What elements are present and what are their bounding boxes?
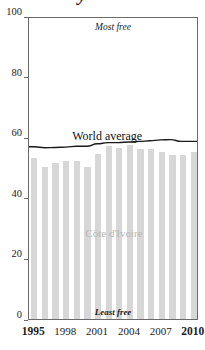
x-axis-tick-label: 2001 [86,325,108,337]
annotation-least-free: Least free [95,307,132,317]
y-axis-tick-label: 40 [12,188,29,199]
freedom-index-chart: y 020406080100 Most free Least free Worl… [0,0,205,350]
cropped-title: y [0,0,205,8]
y-axis-tick-label: 100 [6,6,28,17]
x-axis-tick-label: 2007 [150,325,172,337]
y-axis-tick: 40 [0,193,28,205]
cropped-title-text: y [78,0,86,6]
x-axis-tick-label: 2004 [118,325,140,337]
y-axis-tick-label: 0 [17,309,28,320]
y-axis-tick: 80 [0,72,28,84]
plot-area: Most free Least free World average Côte … [28,17,198,320]
y-axis-tick-label: 20 [12,248,29,259]
y-axis-tick-label: 80 [12,67,29,78]
label-cote-divoire: Côte d'Ivoire [85,227,142,239]
y-axis: 020406080100 [0,0,28,350]
y-axis-tick: 100 [0,11,28,23]
x-axis-tick-label: 1995 [22,325,45,337]
y-axis-tick-label: 60 [12,127,29,138]
annotation-most-free: Most free [95,22,131,32]
y-axis-tick: 60 [0,132,28,144]
x-axis-tick-label: 2010 [181,325,204,337]
label-world-average: World average [72,129,142,144]
x-axis: 199519982001200420072010 [0,323,205,343]
world-average-line [29,18,197,319]
x-axis-tick-label: 1998 [54,325,76,337]
y-axis-tick: 20 [0,253,28,265]
plot-inner: Most free Least free World average Côte … [29,18,197,319]
